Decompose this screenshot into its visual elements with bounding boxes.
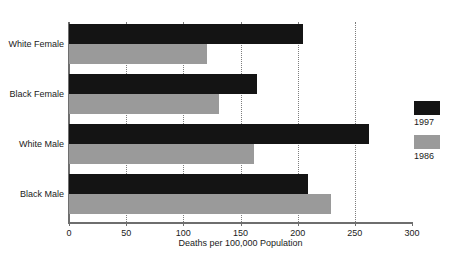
bar-group-white-female: [69, 22, 412, 72]
legend-entry-1997[interactable]: 1997: [414, 101, 452, 128]
legend-swatch-1986: [414, 135, 440, 149]
bar-black-male-1986[interactable]: [69, 194, 331, 214]
tick-mark-250: [355, 222, 356, 226]
bar-group-black-female: [69, 72, 412, 122]
bar-black-male-1997[interactable]: [69, 174, 308, 194]
legend-swatch-1997: [414, 101, 440, 115]
y-axis-category-labels: White Female Black Female White Male Bla…: [0, 22, 64, 222]
bar-white-female-1986[interactable]: [69, 44, 207, 64]
x-axis-title: Deaths per 100,000 Population: [69, 238, 412, 249]
bar-group-black-male: [69, 172, 412, 222]
bar-group-white-male: [69, 122, 412, 172]
tick-mark-200: [298, 222, 299, 226]
legend-label-1986: 1986: [414, 151, 452, 162]
legend-entry-1986[interactable]: 1986: [414, 135, 452, 162]
bar-white-male-1997[interactable]: [69, 124, 369, 144]
bar-white-female-1997[interactable]: [69, 24, 303, 44]
tick-mark-50: [126, 222, 127, 226]
legend: 1997 1986: [414, 101, 452, 169]
category-label-black-female: Black Female: [0, 89, 64, 99]
tick-mark-300: [412, 222, 413, 226]
tick-mark-100: [183, 222, 184, 226]
bar-white-male-1986[interactable]: [69, 144, 254, 164]
tick-mark-0: [69, 222, 70, 226]
bar-black-female-1997[interactable]: [69, 74, 257, 94]
bar-chart-figure: White Female Black Female White Male Bla…: [0, 0, 452, 254]
category-label-white-female: White Female: [0, 39, 64, 49]
legend-label-1997: 1997: [414, 117, 452, 128]
bar-black-female-1986[interactable]: [69, 94, 219, 114]
category-label-white-male: White Male: [0, 139, 64, 149]
plot-area: 050100150200250300: [69, 22, 412, 222]
tick-mark-150: [241, 222, 242, 226]
category-label-black-male: Black Male: [0, 189, 64, 199]
cropped-title-remnant: [18, 0, 218, 2]
